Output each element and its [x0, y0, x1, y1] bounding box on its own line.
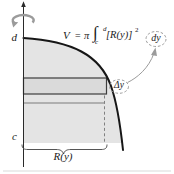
formula-pi: π	[84, 31, 89, 42]
figure-canvas	[0, 0, 174, 174]
rotation-arrowhead-icon	[12, 21, 19, 27]
integrand: [R(y)]	[106, 30, 132, 41]
formula-equals: =	[75, 31, 81, 41]
radius-label: R(y)	[46, 151, 80, 162]
upper-bound-label: d	[2, 32, 17, 43]
callout-arrowhead-icon	[151, 48, 157, 57]
axis-up-arrowhead-icon	[21, 1, 26, 7]
representative-strip	[24, 78, 107, 94]
integral-lower-limit: c	[95, 39, 98, 46]
integrand-exponent: 2	[135, 27, 139, 34]
lower-bound-label: c	[2, 131, 17, 142]
disk-method-figure: d c R(y) Δy V = π ∫ d c [R(y)] 2 dy	[0, 0, 174, 174]
formula-v: V	[63, 30, 70, 41]
callout-arrow	[128, 53, 155, 83]
strip-thickness-label: Δy	[108, 81, 130, 91]
differential-dy: dy	[146, 33, 166, 43]
